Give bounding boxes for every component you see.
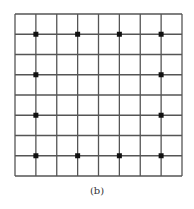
grid-dot [159,72,164,77]
grid-dot [159,32,164,37]
grid-lines [15,14,182,176]
grid-dot [33,72,38,77]
grid-dot [117,32,122,37]
grid-dot [117,153,122,158]
figure-caption: (b) [0,185,194,196]
grid-dot [159,153,164,158]
grid-figure [0,0,194,209]
grid-dot [33,153,38,158]
grid-dot [159,113,164,118]
grid-dot [33,32,38,37]
grid-dot [33,113,38,118]
grid-dot [75,32,80,37]
grid-dot [75,153,80,158]
